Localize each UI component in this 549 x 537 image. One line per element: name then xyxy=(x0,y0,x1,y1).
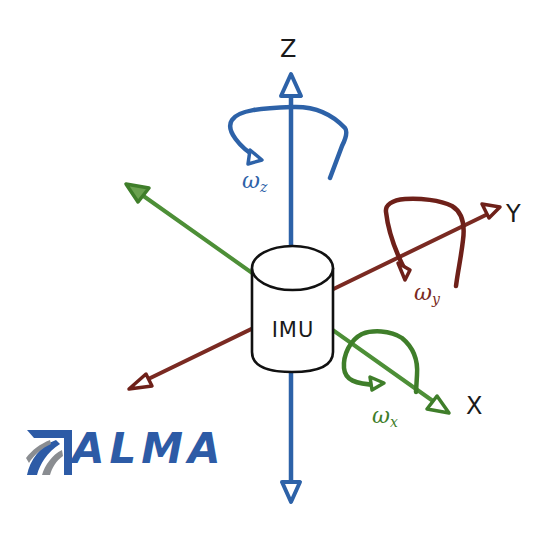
alma-logo-mark-icon xyxy=(26,430,72,475)
x-axis-label: X xyxy=(466,394,482,418)
z-arrowhead-icon xyxy=(281,74,301,96)
omega-x-label: ωx xyxy=(372,405,398,429)
omega-z-label: ωz xyxy=(242,170,267,194)
z-neg-arrowhead-icon xyxy=(282,482,300,502)
y-neg-arrowhead-icon xyxy=(129,374,152,389)
omega-y-arrowhead-icon xyxy=(398,263,410,280)
z-axis-label: Z xyxy=(280,37,296,61)
y-axis-label: Y xyxy=(506,202,521,226)
omega-x-arrowhead-icon xyxy=(370,377,384,390)
alma-logo-text: ALMA xyxy=(72,428,226,470)
omega-y-label: ωy xyxy=(414,282,440,306)
imu-axes-diagram: Z Y X ωz ωy ωx IMU ALMA xyxy=(0,0,549,537)
omega-y-rotation-arrow xyxy=(386,199,464,286)
imu-cylinder xyxy=(252,246,333,372)
imu-label: IMU xyxy=(257,318,329,342)
omega-z-arrowhead-icon xyxy=(248,150,262,164)
